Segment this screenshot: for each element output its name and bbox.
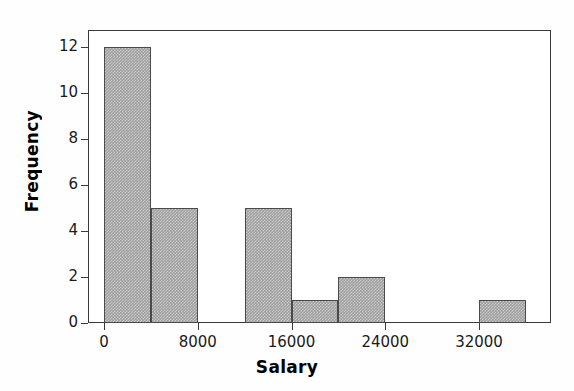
x-tick-label: 8000	[179, 333, 217, 351]
histogram-bar	[292, 300, 339, 323]
x-tick-mark	[292, 323, 293, 330]
x-tick-mark	[104, 323, 105, 330]
x-tick-mark	[198, 323, 199, 330]
histogram-bar	[479, 300, 526, 323]
bars-layer	[88, 30, 551, 323]
histogram-bar	[104, 47, 151, 323]
x-tick-label: 16000	[268, 333, 316, 351]
x-tick-mark	[385, 323, 386, 330]
y-axis-title: Frequency	[22, 110, 42, 212]
y-tick-label: 12	[30, 37, 78, 55]
y-tick-mark	[81, 231, 88, 232]
histogram-figure: 024681012 08000160002400032000 Frequency…	[0, 0, 574, 391]
y-tick-label: 0	[30, 313, 78, 331]
histogram-bar	[245, 208, 292, 323]
y-tick-mark	[81, 185, 88, 186]
histogram-bar	[338, 277, 385, 323]
y-tick-label: 4	[30, 221, 78, 239]
x-tick-label: 32000	[455, 333, 503, 351]
x-tick-mark	[479, 323, 480, 330]
x-tick-label: 0	[99, 333, 109, 351]
x-tick-label: 24000	[361, 333, 409, 351]
y-tick-mark	[81, 93, 88, 94]
histogram-bar	[151, 208, 198, 323]
y-tick-mark	[81, 323, 88, 324]
y-tick-mark	[81, 277, 88, 278]
y-tick-label: 2	[30, 267, 78, 285]
y-tick-label: 10	[30, 83, 78, 101]
y-tick-mark	[81, 139, 88, 140]
x-axis-title: Salary	[0, 357, 574, 377]
y-tick-mark	[81, 47, 88, 48]
